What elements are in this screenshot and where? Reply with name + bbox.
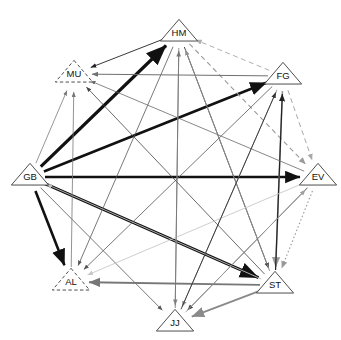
edge-HM-to-EV [189, 44, 305, 164]
node-label-MU: MU [67, 68, 82, 79]
node-label-GB: GB [23, 171, 37, 182]
node-label-AL: AL [65, 276, 77, 287]
edge-GB-to-MU [36, 91, 67, 164]
node-label-ST: ST [269, 279, 281, 290]
diagram-canvas: HMFGEVSTJJALGBMU [0, 0, 341, 340]
node-AL[interactable]: AL [52, 268, 89, 290]
node-label-HM: HM [172, 27, 187, 38]
node-HM[interactable]: HM [160, 19, 197, 41]
edge-EV-to-AL [88, 183, 305, 275]
node-EV[interactable]: EV [299, 163, 336, 185]
edge-FG-to-MU [92, 74, 268, 76]
edge-AL-to-MU [71, 92, 74, 267]
node-label-FG: FG [276, 70, 289, 81]
edge-EV-to-MU [91, 81, 305, 171]
edge-ST-to-MU [86, 87, 264, 274]
node-MU[interactable]: MU [55, 60, 92, 82]
edge-HM-to-MU [91, 38, 165, 67]
node-FG[interactable]: FG [264, 62, 301, 84]
edge-GB-to-AL [35, 191, 64, 265]
edge-ST-to-FG [276, 94, 283, 270]
network-diagram: HMFGEVSTJJALGBMU [0, 0, 341, 340]
node-JJ[interactable]: JJ [156, 309, 193, 331]
node-label-JJ: JJ [170, 317, 180, 328]
edge-FG-to-HM [196, 40, 270, 70]
edge-ST-to-JJ [192, 290, 261, 316]
edge-JJ-to-HM [175, 51, 179, 308]
edge-EV-to-ST [282, 191, 313, 268]
edge-ST-to-AL [89, 282, 260, 285]
node-ST[interactable]: ST [256, 271, 293, 293]
node-label-EV: EV [312, 171, 325, 182]
edge-GB-to-FG [44, 83, 266, 172]
